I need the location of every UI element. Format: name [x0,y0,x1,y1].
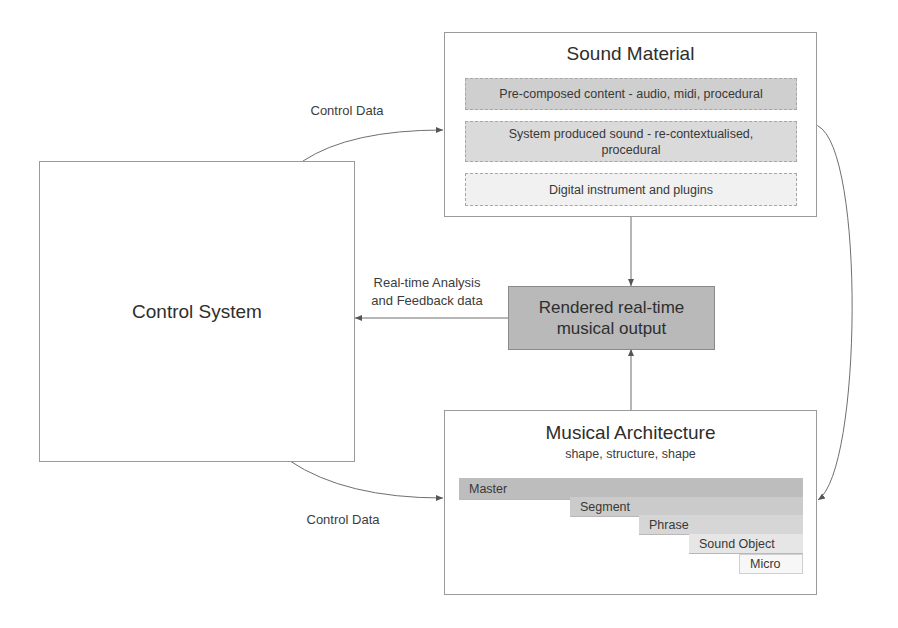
level-bar-sound-object: Sound Object [689,534,803,554]
control-data-top-arrow [303,130,443,161]
musical-architecture-title: Musical Architecture [445,422,816,444]
sound-material-item: Digital instrument and plugins [465,173,797,206]
sound-material-title: Sound Material [445,43,816,65]
sound-material-box: Sound Material Pre-composed content - au… [444,32,817,217]
sound-material-item: System produced sound - re-contextualise… [465,121,797,162]
rendered-output-title: Rendered real-time musical output [533,297,690,339]
level-bar-segment: Segment [570,497,803,517]
rendered-output-box: Rendered real-time musical output [508,286,715,350]
control-data-bottom-arrow [290,461,443,498]
control-system-title: Control System [132,301,262,323]
sound-material-item: Pre-composed content - audio, midi, proc… [465,78,797,110]
control-system-box: Control System [39,161,355,462]
control-data-top-label: Control Data [297,102,397,120]
feedback-label: Real-time Analysis and Feedback data [362,274,492,310]
musical-architecture-box: Musical Architecture shape, structure, s… [444,410,817,595]
level-bar-micro: Micro [739,554,803,574]
musical-architecture-subtitle: shape, structure, shape [445,447,816,461]
sound-architecture-link-arrow [818,126,852,500]
level-bar-phrase: Phrase [639,515,803,535]
control-data-bottom-label: Control Data [293,511,393,529]
